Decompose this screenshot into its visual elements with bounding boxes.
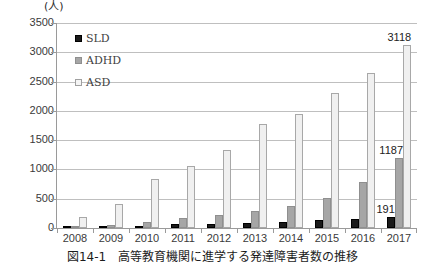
y-tick-label-500: 500 <box>22 193 54 204</box>
x-tick-label-2013: 2013 <box>237 232 273 245</box>
bar-asd-2014[interactable] <box>295 114 303 229</box>
bar-adhd-2015[interactable] <box>323 198 331 228</box>
bar-adhd-2013[interactable] <box>251 211 259 228</box>
bar-group-2011 <box>165 23 201 228</box>
legend-swatch-sld-icon <box>75 35 82 42</box>
y-tick-label-1500: 1500 <box>22 134 54 145</box>
legend-item-sld: SLD <box>75 29 145 47</box>
asd-2017-data-label: 3118 <box>377 31 411 43</box>
x-tick-label-2009: 2009 <box>93 232 129 245</box>
y-tick-mark-1000 <box>51 169 56 170</box>
legend-swatch-adhd-icon <box>75 57 82 64</box>
bar-asd-2010[interactable] <box>151 179 159 228</box>
legend-label-asd: ASD <box>86 76 110 89</box>
x-tick-label-2011: 2011 <box>165 232 201 245</box>
legend-swatch-asd-icon <box>75 79 82 86</box>
adhd-2017-data-label: 1187 <box>369 144 403 156</box>
bar-asd-2009[interactable] <box>115 204 123 228</box>
bar-group-2015 <box>309 23 345 228</box>
y-tick-label-3500: 3500 <box>22 17 54 28</box>
figure-caption: 図14-1 高等教育機関に進学する発達障害者数の推移 <box>0 249 425 265</box>
y-tick-label-3000: 3000 <box>22 46 54 57</box>
x-tick-label-2017: 2017 <box>381 232 417 245</box>
bar-asd-2013[interactable] <box>259 124 267 228</box>
bar-group-2013 <box>237 23 273 228</box>
bar-sld-2015[interactable] <box>315 220 323 228</box>
bar-adhd-2012[interactable] <box>215 215 223 228</box>
y-axis-unit-label: (人) <box>44 1 64 13</box>
y-tick-mark-3500 <box>51 23 56 24</box>
y-tick-mark-500 <box>51 199 56 200</box>
legend-label-sld: SLD <box>86 32 110 45</box>
y-tick-mark-1500 <box>51 140 56 141</box>
bar-adhd-2011[interactable] <box>179 218 187 228</box>
bar-group-2016 <box>345 23 381 228</box>
chart-figure: (人) 3500300025002000150010005000 2008200… <box>0 0 425 270</box>
x-axis-tick-labels: 2008200920102011201220132014201520162017 <box>57 232 417 246</box>
bar-group-2017 <box>381 23 417 228</box>
y-tick-mark-0 <box>51 228 56 229</box>
y-tick-label-1000: 1000 <box>22 163 54 174</box>
bar-asd-2008[interactable] <box>79 217 87 228</box>
x-tick-label-2010: 2010 <box>129 232 165 245</box>
bar-sld-2017[interactable] <box>387 217 395 228</box>
x-tick-label-2012: 2012 <box>201 232 237 245</box>
bar-adhd-2014[interactable] <box>287 206 295 228</box>
bar-asd-2011[interactable] <box>187 166 195 228</box>
legend-label-adhd: ADHD <box>86 54 121 67</box>
legend-item-adhd: ADHD <box>75 51 145 69</box>
x-tick-label-2015: 2015 <box>309 232 345 245</box>
sld-2017-data-label: 191 <box>361 203 395 215</box>
legend-item-asd: ASD <box>75 73 145 91</box>
y-tick-mark-3000 <box>51 52 56 53</box>
bar-asd-2015[interactable] <box>331 93 339 228</box>
y-tick-label-0: 0 <box>22 222 54 233</box>
x-tick-label-2008: 2008 <box>57 232 93 245</box>
y-tick-label-2000: 2000 <box>22 105 54 116</box>
x-tick-label-2014: 2014 <box>273 232 309 245</box>
bar-sld-2016[interactable] <box>351 219 359 228</box>
bar-group-2014 <box>273 23 309 228</box>
bar-asd-2017[interactable] <box>403 45 411 228</box>
bar-adhd-2017[interactable] <box>395 158 403 228</box>
y-tick-mark-2500 <box>51 82 56 83</box>
chart-legend: SLD ADHD ASD <box>75 29 145 95</box>
y-tick-mark-2000 <box>51 111 56 112</box>
bar-asd-2012[interactable] <box>223 150 231 228</box>
bar-group-2012 <box>201 23 237 228</box>
x-tick-label-2016: 2016 <box>345 232 381 245</box>
y-tick-label-2500: 2500 <box>22 76 54 87</box>
